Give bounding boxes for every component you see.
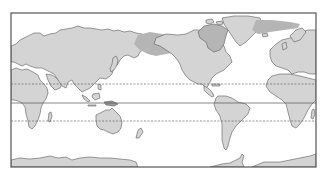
java: [88, 105, 96, 106]
world-map-svg: [0, 0, 329, 181]
cuba: [212, 84, 220, 86]
philippines: [98, 84, 101, 90]
iceland: [262, 33, 268, 37]
world-map: [0, 0, 329, 181]
